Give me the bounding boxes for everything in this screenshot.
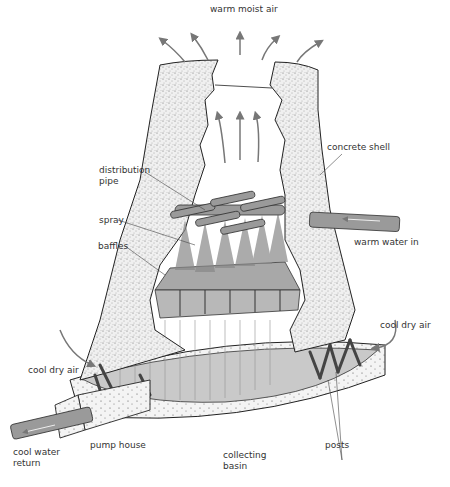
label-cool-dry-air-right: cool dry air	[380, 320, 431, 331]
label-posts: posts	[325, 440, 349, 451]
label-warm-moist-air: warm moist air	[210, 4, 278, 15]
label-collecting-basin: collecting basin	[223, 450, 266, 472]
label-spray: spray	[99, 215, 124, 226]
label-pump-house: pump house	[90, 440, 146, 451]
label-warm-water-in: warm water in	[354, 237, 419, 248]
label-baffles: baffles	[98, 241, 128, 252]
label-cool-water-return: cool water return	[13, 447, 60, 469]
label-concrete-shell: concrete shell	[327, 142, 390, 153]
spray-shape	[175, 212, 288, 272]
cooling-tower-diagram: warm moist air distribution pipe concret…	[0, 0, 450, 487]
label-distribution-pipe: distribution pipe	[99, 165, 150, 187]
cool-water-return-pipe	[10, 407, 93, 440]
label-cool-dry-air-left: cool dry air	[28, 365, 79, 376]
baffles-shape	[155, 262, 300, 318]
